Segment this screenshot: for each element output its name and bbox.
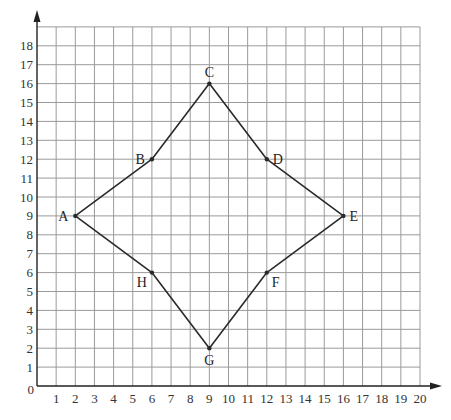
y-tick-label: 17 (20, 57, 34, 72)
point-d-label: D (273, 152, 283, 167)
y-tick-label: 11 (20, 171, 33, 186)
x-tick-label: 12 (260, 391, 273, 406)
y-tick-label: 7 (27, 246, 34, 261)
point-g-marker (207, 346, 211, 350)
y-tick-label: 8 (27, 227, 34, 242)
tick-labels: 1234567891011121314151617181920123456789… (20, 38, 427, 406)
y-tick-label: 3 (27, 322, 34, 337)
y-tick-label: 9 (27, 208, 34, 223)
y-tick-label: 18 (20, 38, 33, 53)
x-tick-label: 19 (394, 391, 407, 406)
x-tick-label: 4 (110, 391, 117, 406)
x-tick-label: 3 (91, 391, 98, 406)
x-tick-label: 5 (130, 391, 137, 406)
point-e-label: E (349, 209, 358, 224)
y-tick-label: 16 (20, 76, 34, 91)
y-tick-label: 6 (27, 265, 34, 280)
y-tick-label: 10 (20, 190, 33, 205)
point-c-label: C (205, 65, 214, 80)
x-tick-label: 11 (241, 391, 254, 406)
x-tick-label: 18 (375, 391, 388, 406)
x-tick-label: 6 (149, 391, 156, 406)
x-tick-label: 8 (187, 391, 194, 406)
x-tick-label: 14 (299, 391, 313, 406)
point-b-marker (150, 157, 154, 161)
y-tick-label: 13 (20, 133, 33, 148)
x-tick-label: 20 (414, 391, 427, 406)
point-a-marker (73, 214, 77, 218)
x-axis-arrow-icon (430, 383, 442, 390)
y-tick-label: 4 (27, 303, 34, 318)
x-tick-label: 16 (337, 391, 351, 406)
origin-label: 0 (28, 382, 35, 397)
y-tick-label: 2 (27, 341, 34, 356)
point-c-marker (207, 81, 211, 85)
coordinate-grid: 1234567891011121314151617181920123456789… (0, 0, 451, 420)
x-tick-label: 2 (72, 391, 79, 406)
x-tick-label: 10 (222, 391, 235, 406)
point-b-label: B (136, 152, 145, 167)
grid-lines (37, 27, 420, 386)
x-tick-label: 13 (279, 391, 292, 406)
point-h-label: H (137, 275, 147, 290)
y-tick-label: 12 (20, 152, 33, 167)
x-tick-label: 7 (168, 391, 175, 406)
x-tick-label: 17 (356, 391, 370, 406)
point-f-label: F (272, 275, 280, 290)
point-h-marker (150, 270, 154, 274)
y-tick-label: 14 (20, 114, 34, 129)
point-e-marker (341, 214, 345, 218)
x-tick-label: 9 (206, 391, 213, 406)
x-tick-label: 15 (318, 391, 331, 406)
y-tick-label: 15 (20, 95, 33, 110)
y-tick-label: 5 (27, 284, 34, 299)
y-axis-arrow-icon (34, 10, 41, 22)
point-d-marker (265, 157, 269, 161)
x-tick-label: 1 (53, 391, 60, 406)
point-f-marker (265, 270, 269, 274)
point-g-label: G (204, 353, 214, 368)
y-tick-label: 1 (27, 360, 34, 375)
point-a-label: A (58, 209, 69, 224)
